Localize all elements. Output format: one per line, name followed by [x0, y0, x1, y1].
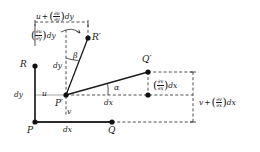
ul-fraction: ∂u ∂y: [35, 29, 42, 40]
point-P: [32, 119, 37, 124]
top-bracket-label: u + ( ∂u ∂y ) dy: [36, 6, 74, 22]
rb-tail: dx: [227, 99, 236, 107]
label-u: u: [42, 90, 47, 98]
top-label-paren-close: ): [60, 11, 64, 22]
label-dy-left: dy: [14, 91, 23, 99]
deformed-edge-PR: [66, 38, 88, 95]
top-label-denominator: ∂y: [53, 17, 60, 22]
rb-paren-close: ): [222, 97, 226, 108]
ul-paren-close: ): [42, 30, 46, 41]
qd-tail: dx: [168, 82, 177, 90]
rb-op: +: [203, 99, 211, 107]
rb-denominator: ∂x: [216, 103, 223, 108]
point-R-prime: [85, 35, 90, 40]
ul-tail: dy: [47, 32, 56, 40]
top-label-op: +: [41, 13, 49, 21]
label-dx-bottom: dx: [63, 126, 72, 134]
label-dy-inner: dy: [53, 62, 62, 70]
qprime-drop-label: ( ∂v ∂x ) dx: [153, 76, 177, 92]
label-point-P-prime: P′: [55, 99, 63, 108]
qd-paren-close: ): [164, 80, 168, 91]
label-angle-beta: β: [73, 52, 78, 60]
point-Q-prime: [145, 69, 150, 74]
deformation-diagram: u + ( ∂u ∂y ) dy ( ∂u ∂y ) dy ( ∂v: [0, 0, 260, 152]
right-bracket-label: v + ( ∂v ∂x ) dx: [199, 92, 236, 108]
point-Q: [109, 119, 114, 124]
label-point-R-prime: R′: [92, 33, 101, 42]
qd-fraction: ∂v ∂x: [157, 79, 164, 90]
qd-denominator: ∂x: [157, 86, 164, 91]
upper-left-label: ( ∂u ∂y ) dy: [31, 26, 56, 42]
label-point-Q: Q: [108, 126, 115, 135]
label-dx-middle: dx: [104, 99, 113, 107]
point-Q-base: [145, 92, 150, 97]
alpha-angle-arc: [108, 83, 109, 95]
label-angle-alpha: α: [114, 84, 119, 92]
label-point-Q-prime: Q′: [142, 55, 151, 64]
top-label-fraction: ∂u ∂y: [53, 11, 60, 22]
label-point-P: P: [27, 126, 33, 135]
diagram-canvas: [0, 0, 260, 152]
ul-denominator: ∂y: [35, 36, 42, 41]
label-point-R: R: [20, 60, 27, 69]
deformed-edge-PQ: [66, 72, 148, 95]
top-label-tail: dy: [65, 13, 74, 21]
rb-fraction: ∂v ∂x: [216, 97, 223, 108]
point-R: [32, 63, 37, 68]
label-v: v: [67, 108, 71, 116]
point-P-prime: [63, 92, 68, 97]
pointer-arrow: [61, 29, 80, 33]
